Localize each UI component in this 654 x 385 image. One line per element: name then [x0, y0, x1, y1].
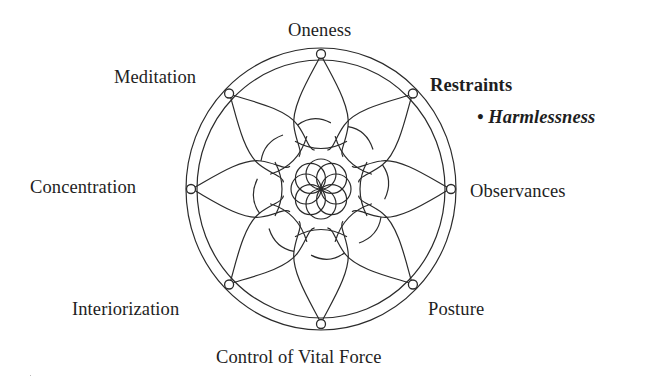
- label-meditation: Meditation: [114, 68, 196, 87]
- label-oneness: Oneness: [288, 21, 351, 40]
- label-observances: Observances: [470, 182, 566, 201]
- label-interiorization: Interiorization: [72, 300, 179, 319]
- petal-hook: [348, 127, 373, 150]
- petal-hook: [269, 229, 294, 252]
- limb-node: [225, 89, 234, 98]
- center-rosette: [291, 159, 351, 219]
- petal: [294, 55, 349, 157]
- petal: [327, 196, 412, 284]
- petal: [230, 196, 315, 284]
- limb-node: [447, 185, 456, 194]
- limb-node: [317, 50, 326, 59]
- label-harmlessness: • Harmlessness: [477, 108, 595, 127]
- petal-hook: [311, 253, 344, 259]
- limb-node: [187, 185, 196, 194]
- limb-node: [317, 320, 326, 329]
- petal-hook: [359, 217, 381, 243]
- petal-hook: [383, 165, 389, 200]
- label-concentration: Concentration: [30, 178, 136, 197]
- petal: [230, 94, 315, 182]
- petal-hook: [298, 119, 331, 125]
- limb-node: [225, 280, 234, 289]
- label-posture: Posture: [428, 300, 484, 319]
- petal: [327, 94, 412, 182]
- limb-node: [408, 89, 417, 98]
- petal: [352, 161, 450, 218]
- limb-node: [408, 280, 417, 289]
- petal-hook: [261, 135, 283, 161]
- petal: [192, 161, 290, 218]
- petal: [294, 221, 349, 323]
- center-dot: [319, 187, 323, 191]
- petal-hook: [253, 179, 259, 214]
- label-restraints: Restraints: [430, 76, 512, 95]
- scan-speck: [30, 375, 31, 376]
- eight-limbs-diagram: Oneness Meditation Restraints • Harmless…: [0, 0, 654, 385]
- label-control-of-vital-force: Control of Vital Force: [216, 348, 382, 367]
